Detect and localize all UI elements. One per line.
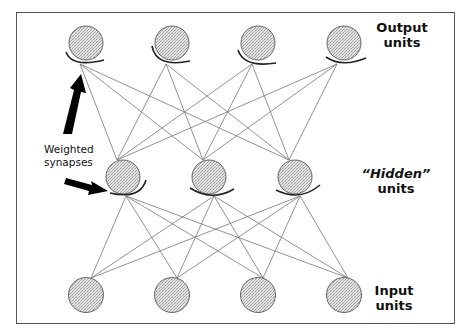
weighted-synapses-label: Weighted synapses xyxy=(44,143,94,169)
input-node xyxy=(155,278,190,313)
input-node xyxy=(69,278,104,313)
annotation-line1: Weighted xyxy=(44,143,94,156)
output-label-line2: units xyxy=(372,35,432,50)
output-label-line1: Output xyxy=(372,20,432,35)
hidden-label-line1: “Hidden” xyxy=(355,166,437,181)
hidden-label-line2: units xyxy=(355,181,437,196)
input-units-label: Input units xyxy=(368,283,420,313)
hidden-units-label: “Hidden” units xyxy=(355,166,437,196)
input-node xyxy=(241,278,276,313)
annotation-line2: synapses xyxy=(44,156,94,169)
input-label-line2: units xyxy=(368,298,420,313)
output-units-label: Output units xyxy=(372,20,432,50)
input-label-line1: Input xyxy=(368,283,420,298)
input-node xyxy=(327,278,362,313)
